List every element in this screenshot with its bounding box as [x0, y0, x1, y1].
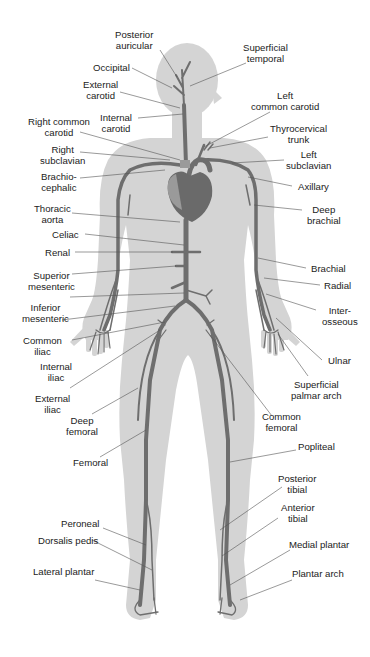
label-occipital: Occipital [93, 63, 130, 74]
label-thoracic-aorta: Thoracic aorta [34, 204, 71, 225]
label-right-common-carotid: Right common carotid [28, 117, 90, 138]
label-thyrocervical-trunk: Thyrocervical trunk [270, 124, 327, 145]
label-celiac: Celiac [52, 230, 79, 241]
label-external-iliac: External iliac [35, 394, 70, 415]
label-brachial: Brachial [311, 264, 346, 275]
label-deep-brachial: Deep brachial [307, 205, 341, 226]
label-posterior-tibial: Posterior tibial [278, 474, 316, 495]
label-peroneal: Peroneal [61, 519, 99, 530]
label-inferior-mesenteric: Inferior mesenteric [22, 303, 69, 324]
label-dorsalis-pedis: Dorsalis pedis [38, 536, 98, 547]
label-posterior-auricular: Posterior auricular [115, 30, 153, 51]
label-interosseous: Inter- osseous [322, 306, 358, 327]
label-axillary: Axillary [298, 182, 329, 193]
label-ulnar: Ulnar [328, 356, 351, 367]
label-medial-plantar: Medial plantar [289, 540, 349, 551]
label-brachiocephalic: Brachio- cephalic [41, 172, 77, 193]
label-superficial-temporal: Superficial temporal [243, 43, 288, 64]
label-anterior-tibial: Anterior tibial [281, 503, 315, 524]
label-right-subclavian: Right subclavian [40, 145, 85, 166]
label-renal: Renal [45, 248, 70, 259]
label-external-carotid: External carotid [83, 80, 118, 101]
label-deep-femoral: Deep femoral [66, 416, 98, 437]
label-superior-mesenteric: Superior mesenteric [28, 271, 75, 292]
label-plantar-arch: Plantar arch [292, 569, 344, 580]
label-superficial-palmar-arch: Superficial palmar arch [291, 380, 342, 401]
label-common-femoral: Common femoral [262, 412, 301, 433]
label-left-common-carotid: Left common carotid [251, 91, 319, 112]
label-internal-carotid: Internal carotid [100, 113, 132, 134]
label-popliteal: Popliteal [298, 442, 335, 453]
label-common-iliac: Common iliac [23, 336, 62, 357]
label-femoral: Femoral [73, 458, 108, 469]
label-lateral-plantar: Lateral plantar [33, 567, 94, 578]
label-radial: Radial [324, 281, 351, 292]
label-left-subclavian: Left subclavian [286, 150, 331, 171]
label-internal-iliac: Internal iliac [40, 362, 72, 383]
